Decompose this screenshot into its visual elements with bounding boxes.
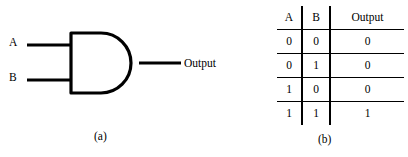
and-gate-body [71, 33, 131, 93]
table-row: 0 0 0 [277, 30, 404, 54]
cell-output: 0 [330, 54, 404, 78]
table-row: 1 0 0 [277, 78, 404, 102]
truth-table: A B Output 0 0 0 0 1 0 1 0 [277, 6, 404, 125]
cell-a: 0 [277, 54, 302, 78]
table-row: 0 1 0 [277, 54, 404, 78]
cell-output: 1 [330, 102, 404, 126]
input-b-label: B [9, 72, 17, 84]
cell-b: 0 [302, 78, 330, 102]
table-header-row: A B Output [277, 6, 404, 30]
figure-container: A B Output (a) A B Output 0 0 [0, 0, 408, 157]
caption-b: (b) [318, 134, 331, 146]
cell-b: 1 [302, 102, 330, 126]
and-gate-diagram-panel: A B Output (a) [0, 0, 204, 157]
column-header-a: A [277, 6, 302, 30]
column-header-output: Output [330, 6, 404, 30]
cell-a: 1 [277, 78, 302, 102]
column-header-b: B [302, 6, 330, 30]
cell-b: 0 [302, 30, 330, 54]
cell-a: 1 [277, 102, 302, 126]
cell-output: 0 [330, 30, 404, 54]
output-label: Output [184, 58, 216, 70]
cell-output: 0 [330, 78, 404, 102]
cell-b: 1 [302, 54, 330, 78]
truth-table-panel: A B Output 0 0 0 0 1 0 1 0 [277, 6, 404, 126]
table-row: 1 1 1 [277, 102, 404, 126]
cell-a: 0 [277, 30, 302, 54]
input-a-label: A [9, 37, 17, 49]
caption-a: (a) [94, 131, 107, 143]
